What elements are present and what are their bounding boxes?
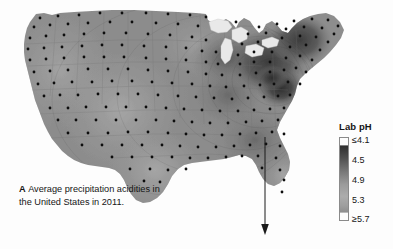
figure-caption-label: A — [19, 184, 26, 194]
legend-colorbar-wrap — [339, 137, 349, 221]
legend-tick-2: 4.9 — [352, 176, 365, 185]
legend-tick-1: 4.5 — [352, 156, 365, 165]
legend-colorbar — [339, 137, 349, 221]
legend-tick-3: 5.3 — [352, 196, 365, 205]
precipitation-acidity-map — [0, 0, 393, 249]
legend-tick-0: ≤4.1 — [352, 136, 369, 145]
legend-tick-4: ≥5.7 — [352, 215, 369, 224]
figure-caption-text: Average precipitation acidities in the U… — [19, 184, 160, 207]
figure-page: Lab pH ≤4.1 4.5 4.9 5.3 ≥5.7 AAverage pr… — [0, 0, 393, 249]
us-map-svg — [0, 0, 393, 249]
legend-title: Lab pH — [339, 121, 372, 132]
map-landmass — [0, 0, 393, 249]
figure-caption: AAverage precipitation acidities in the … — [19, 183, 169, 209]
map-legend: Lab pH ≤4.1 4.5 4.9 5.3 ≥5.7 — [336, 121, 393, 225]
